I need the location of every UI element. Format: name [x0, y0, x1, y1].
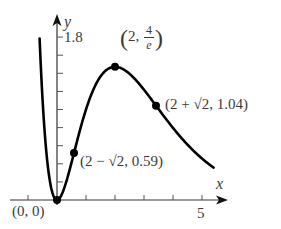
origin-label: (0, 0)	[12, 204, 45, 219]
point-marker	[70, 149, 78, 157]
inflection-right-label: (2 + √2, 1.04)	[165, 97, 248, 112]
fraction-numerator: 4	[144, 24, 154, 38]
point-marker	[111, 63, 119, 71]
y-tick-label-1.8: 1.8	[64, 30, 83, 45]
point-marker	[53, 196, 61, 204]
inflection-left-label: (2 − √2, 0.59)	[80, 154, 163, 169]
function-curve	[40, 39, 214, 200]
x-tick-label-5: 5	[197, 206, 205, 221]
close-paren: )	[155, 25, 163, 51]
open-paren: (	[120, 25, 128, 51]
max-point-x: 2,	[128, 28, 139, 44]
key-points	[53, 63, 160, 204]
fraction-denominator: e	[146, 38, 151, 51]
fraction-4-over-e: 4 e	[144, 24, 154, 51]
y-axis-label: y	[64, 14, 71, 30]
x-axis-label: x	[216, 176, 223, 192]
point-marker	[152, 102, 160, 110]
maximum-point-label: (2, 4 e )	[120, 24, 163, 51]
